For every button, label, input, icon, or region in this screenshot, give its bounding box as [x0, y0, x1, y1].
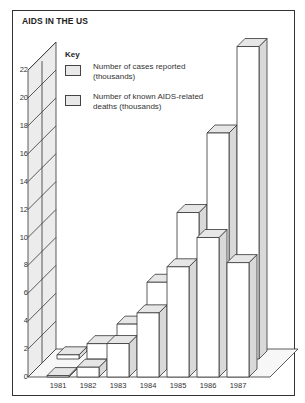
x-tick-label: 1983 — [103, 381, 133, 390]
y-tick-label: 18 — [10, 121, 28, 130]
x-tick-label: 1986 — [193, 381, 223, 390]
bar-deaths-1987-face — [227, 263, 249, 377]
bar-cases-1981-face — [57, 355, 79, 359]
bar-deaths-1985-side — [189, 259, 197, 377]
bar-deaths-1982-face — [77, 367, 99, 377]
y-tick-label: 4 — [10, 316, 28, 325]
bar-deaths-1984-face — [137, 313, 159, 377]
y-tick-label: 10 — [10, 233, 28, 242]
y-tick-label: 8 — [10, 260, 28, 269]
bar-chart-plot — [0, 0, 305, 403]
x-tick-label: 1987 — [223, 381, 253, 390]
x-tick-label: 1982 — [73, 381, 103, 390]
x-tick-label: 1985 — [163, 381, 193, 390]
bar-deaths-1981-face — [47, 376, 69, 377]
y-tick-label: 6 — [10, 288, 28, 297]
bar-deaths-1986-face — [197, 238, 219, 378]
y-tick-label: 20 — [10, 93, 28, 102]
y-tick-label: 2 — [10, 344, 28, 353]
bar-deaths-1985-face — [167, 267, 189, 377]
bar-cases-1987-side — [259, 39, 267, 359]
bar-deaths-1984-side — [159, 305, 167, 377]
y-tick-label: 14 — [10, 177, 28, 186]
bar-cases-1982-face — [87, 344, 109, 359]
y-tick-label: 16 — [10, 149, 28, 158]
bar-deaths-1987-side — [249, 255, 257, 377]
y-tick-label: 12 — [10, 205, 28, 214]
x-tick-label: 1984 — [133, 381, 163, 390]
y-tick-label: 0 — [10, 372, 28, 381]
y-tick-label: 22 — [10, 65, 28, 74]
bar-deaths-1986-side — [219, 230, 227, 378]
x-tick-label: 1981 — [43, 381, 73, 390]
bar-deaths-1983-face — [107, 344, 129, 377]
